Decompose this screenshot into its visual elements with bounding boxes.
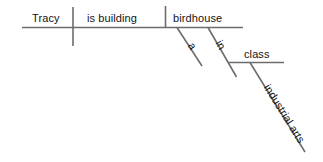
- preposition-slant-line: [208, 28, 237, 78]
- diagram-lines: [0, 0, 323, 162]
- label-prepositional-object: class: [244, 48, 270, 60]
- label-direct-object: birdhouse: [173, 12, 222, 24]
- label-subject: Tracy: [32, 12, 60, 24]
- label-verb: is building: [87, 12, 137, 24]
- sentence-diagram: Tracy is building birdhouse a in class i…: [0, 0, 323, 162]
